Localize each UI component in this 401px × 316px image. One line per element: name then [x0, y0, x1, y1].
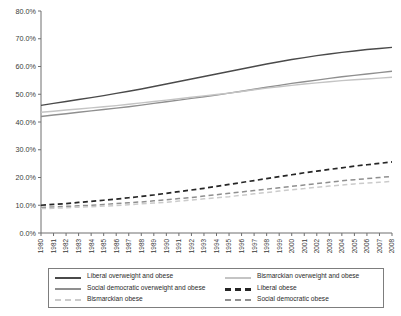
x-axis-tick-label: 1987	[125, 239, 132, 254]
x-axis-tick-label: 1984	[88, 239, 95, 254]
x-axis-tick-label: 1983	[75, 239, 82, 254]
x-axis-tick-label: 1991	[175, 239, 182, 254]
x-axis-tick-label: 2000	[288, 239, 295, 254]
legend-item[interactable]: Liberal overweight and obese	[49, 271, 219, 282]
x-axis-tick-label: 1995	[225, 239, 232, 254]
data-series-line	[41, 77, 392, 112]
x-axis-tick-label: 1985	[100, 239, 107, 254]
x-axis-tick-label: 1986	[113, 239, 120, 254]
legend-line-swatch	[55, 284, 81, 292]
legend-item-label: Liberal obese	[257, 285, 297, 292]
chart-container: 0.0%10.0%20.0%30.0%40.0%50.0%60.0%70.0%8…	[0, 0, 401, 316]
data-series-line	[41, 47, 392, 105]
x-axis-tick-label: 2004	[338, 239, 345, 254]
legend-line-swatch	[225, 273, 251, 281]
legend-item[interactable]: Liberal obese	[219, 282, 385, 293]
y-axis-tick-label: 30.0%	[16, 145, 37, 154]
legend-item[interactable]: Bismarckian overweight and obese	[219, 271, 385, 282]
legend-line-swatch	[225, 295, 251, 303]
x-axis-tick-label: 1999	[276, 239, 283, 254]
data-series-group	[41, 47, 392, 208]
x-axis-tick-label: 2007	[376, 239, 383, 254]
x-axis-tick-label: 1993	[200, 239, 207, 254]
x-axis-tick-labels: 1980198119821983198419851986198719881989…	[37, 239, 395, 254]
x-axis-tick-label: 1982	[62, 239, 69, 254]
x-axis-tick-label: 2001	[301, 239, 308, 254]
chart-legend: Liberal overweight and obeseBismarckian …	[48, 268, 384, 308]
x-axis-tick-label: 1988	[138, 239, 145, 254]
x-axis-tick-label: 1980	[37, 239, 44, 254]
x-axis-tick-label: 1990	[163, 239, 170, 254]
x-axis-tick-label: 2002	[313, 239, 320, 254]
y-axis-tick-label: 50.0%	[16, 90, 37, 99]
x-axis-tick-label: 1997	[251, 239, 258, 254]
legend-line-swatch	[225, 284, 251, 292]
y-axis-tick-label: 40.0%	[16, 118, 37, 127]
x-axis-tick-label: 2005	[351, 239, 358, 254]
y-axis-tick-label: 0.0%	[20, 229, 37, 238]
legend-item-label: Bismarckian overweight and obese	[257, 273, 359, 280]
x-axis-tick-label: 2003	[326, 239, 333, 254]
y-axis-tick-label: 80.0%	[16, 7, 37, 16]
y-axis-tick-label: 60.0%	[16, 62, 37, 71]
legend-line-swatch	[55, 295, 81, 303]
legend-item-label: Social democratic overweight and obese	[87, 285, 205, 292]
data-series-line	[41, 176, 392, 207]
x-axis-tick-label: 1989	[150, 239, 157, 254]
y-axis-tick-label: 20.0%	[16, 173, 37, 182]
y-axis-tick-label: 70.0%	[16, 34, 37, 43]
data-series-line	[41, 162, 392, 205]
legend-item-label: Liberal overweight and obese	[87, 273, 173, 280]
x-axis-tick-label: 2008	[388, 239, 395, 254]
x-axis-tick-label: 1994	[213, 239, 220, 254]
legend-item[interactable]: Bismarckian obese	[49, 294, 219, 305]
legend-item[interactable]: Social democratic overweight and obese	[49, 282, 219, 293]
x-axis-tick-label: 1981	[50, 239, 57, 254]
x-axis-tick-label: 1992	[188, 239, 195, 254]
y-axis-tick-labels: 0.0%10.0%20.0%30.0%40.0%50.0%60.0%70.0%8…	[16, 7, 37, 238]
legend-item-label: Bismarckian obese	[87, 296, 143, 303]
x-axis-tick-label: 2006	[363, 239, 370, 254]
y-axis-tick-label: 10.0%	[16, 201, 37, 210]
legend-item-label: Social democratic obese	[257, 296, 329, 303]
legend-item[interactable]: Social democratic obese	[219, 294, 385, 305]
x-axis-tick-label: 1998	[263, 239, 270, 254]
legend-line-swatch	[55, 273, 81, 281]
x-axis-tick-label: 1996	[238, 239, 245, 254]
